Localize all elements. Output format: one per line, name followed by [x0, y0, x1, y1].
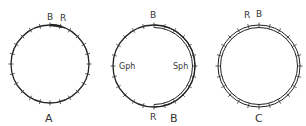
marker-label-b: B [47, 12, 53, 22]
caption-a: A [45, 112, 53, 125]
marker-label-r: R [60, 13, 66, 23]
marker-label-r: R [244, 10, 250, 20]
diagram-a: B R A [9, 12, 92, 125]
figure-canvas: B R A B Gph Sph R B R B C [0, 0, 306, 126]
diagram-b: B Gph Sph R B [111, 10, 198, 125]
marker-label-r: R [150, 112, 156, 122]
ticks-c [216, 23, 303, 110]
diagram-c: R B C [216, 9, 303, 125]
ticks-a [9, 23, 92, 106]
marker-label-gph: Gph [119, 62, 135, 71]
caption-b: B [170, 112, 178, 125]
marker-label-b: B [256, 9, 262, 19]
marker-label-sph: Sph [173, 62, 188, 71]
circle-c-inner [221, 28, 298, 105]
caption-c: C [255, 112, 263, 125]
marker-label-b: B [150, 10, 156, 20]
